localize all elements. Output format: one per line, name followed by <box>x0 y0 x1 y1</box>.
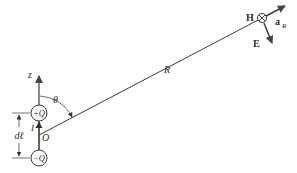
theta-label: θ <box>53 94 58 105</box>
negative-charge-label: −Q <box>33 153 45 163</box>
dl-dimension: dℓ <box>12 113 30 158</box>
ar-subscript: R <box>281 22 287 30</box>
negative-charge: −Q <box>31 150 47 166</box>
hertzian-dipole-diagram: z I O +Q −Q dℓ R θ H a <box>0 0 297 173</box>
e-field-vector: E <box>253 23 272 49</box>
origin-label: O <box>42 132 49 143</box>
dl-label: dℓ <box>14 130 23 141</box>
positive-charge-label: +Q <box>33 108 45 118</box>
e-label: E <box>253 38 260 49</box>
positive-charge: +Q <box>31 105 47 121</box>
h-label: H <box>246 12 254 23</box>
ar-label: a <box>275 16 280 27</box>
z-axis: z <box>27 69 39 105</box>
current-arrow-icon <box>36 122 43 129</box>
z-axis-label: z <box>27 69 32 80</box>
current-label: I <box>30 123 35 133</box>
ar-unit-vector: a R <box>266 6 287 30</box>
r-label: R <box>163 64 170 75</box>
r-vector-line <box>39 19 260 135</box>
